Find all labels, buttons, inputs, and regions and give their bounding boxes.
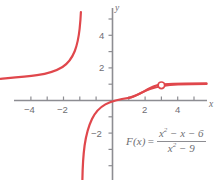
equation-function-name: F(x) xyxy=(126,135,146,147)
x-tick-label-pos2: 2 xyxy=(142,104,147,115)
denominator-remainder: − 9 xyxy=(176,142,194,154)
y-tick-label-pos2: 2 xyxy=(99,62,104,73)
x-tick-label-neg2: −2 xyxy=(57,104,68,115)
open-circle-hole-icon xyxy=(158,82,165,89)
function-equation: F(x) = x2 − x − 6 x2 − 9 xyxy=(126,128,206,155)
y-tick-label-neg2: −2 xyxy=(91,128,102,139)
equation-fraction: x2 − x − 6 x2 − 9 xyxy=(157,128,206,155)
graph-figure: −4 −2 2 4 4 2 −2 x y F(x) = x2 − x − 6 x… xyxy=(0,0,224,180)
numerator-remainder: − x − 6 xyxy=(167,127,203,139)
equation-denominator: x2 − 9 xyxy=(166,143,197,155)
curve-right-branch-smooth xyxy=(129,84,207,98)
y-tick-label-pos4: 4 xyxy=(99,30,104,41)
x-axis-label: x xyxy=(209,99,213,109)
equation-equals-sign: = xyxy=(148,135,154,147)
x-tick-label-neg4: −4 xyxy=(24,104,35,115)
curve-left-branch xyxy=(1,12,81,79)
y-axis-label: y xyxy=(115,3,119,13)
equation-numerator: x2 − x − 6 xyxy=(157,128,206,140)
x-tick-label-pos4: 4 xyxy=(175,104,180,115)
